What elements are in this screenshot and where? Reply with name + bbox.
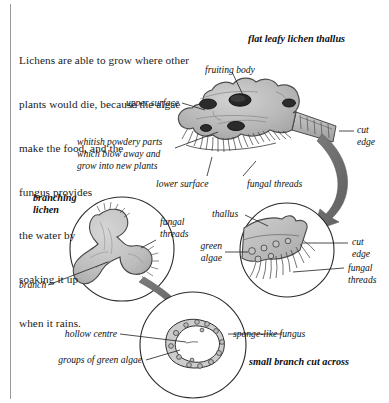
label-cut-edge-top-line2: edge: [357, 136, 375, 148]
label-fruiting-body: fruiting body: [205, 64, 255, 76]
leader-fungal-threads-top: [243, 161, 256, 176]
label-fungal-threads-branch-line2: threads: [160, 228, 188, 240]
label-fungal-threads-branch-line1: fungal: [160, 216, 185, 228]
label-whitish-powdery-line2: which blow away and: [77, 148, 160, 160]
lichen-diagram-figure: Lichens are able to grow where other pla…: [0, 0, 389, 403]
magnified-cut-thallus-circle: [240, 203, 334, 297]
label-green-algae-line1: green: [186, 240, 222, 252]
heading-flat-leafy-lichen-thallus: flat leafy lichen thallus: [248, 33, 345, 45]
label-whitish-powdery-line3: grow into new plants: [77, 160, 157, 172]
label-fungal-threads-top: fungal threads: [247, 178, 302, 190]
intro-line-1: Lichens are able to grow where other: [19, 53, 219, 68]
intro-line-6: soaking it up: [19, 272, 219, 287]
label-upper-surface: upper surface: [126, 97, 179, 109]
heading-small-branch-cut-across: small branch cut across: [249, 356, 349, 368]
label-whitish-powdery-line1: whitish powdery parts: [77, 136, 162, 148]
label-lower-surface: lower surface: [156, 178, 209, 190]
label-hollow-centre: hollow centre: [42, 328, 117, 340]
label-cut-edge-mid-line2: edge: [352, 248, 370, 260]
intro-line-2: plants would die, because the algae: [19, 97, 219, 112]
thallus-cut-edge-face: [292, 112, 336, 142]
label-fungal-threads-mid-line2: threads: [348, 274, 376, 286]
label-fungal-threads-mid-line1: fungal: [348, 262, 373, 274]
label-green-algae-line2: algae: [186, 252, 222, 264]
label-sponge-like-fungus: sponge-like fungus: [233, 328, 305, 340]
label-branch: branch: [19, 279, 46, 291]
label-cut-edge-mid-line1: cut: [352, 236, 364, 248]
label-cut-edge-top-line1: cut: [357, 124, 369, 136]
heading-branching-lichen-line1: branching: [33, 192, 77, 204]
heading-branching-lichen-line2: lichen: [33, 204, 59, 216]
label-thallus: thallus: [212, 208, 238, 220]
label-groups-of-green-algae: groups of green algae: [22, 354, 142, 366]
